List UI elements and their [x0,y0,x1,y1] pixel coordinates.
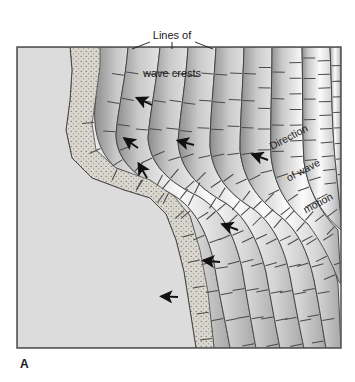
wave-orthogonal-ray [243,101,255,102]
wave-orthogonal-ray [198,128,210,129]
crest-label-line1: Lines of [143,29,201,42]
wave-orthogonal-ray [332,65,344,66]
wave-direction-arrow [161,296,178,297]
wave-orthogonal-ray [229,99,241,100]
lines-of-wave-crests-label: Lines of wave crests [143,4,201,104]
wave-orthogonal-ray [230,73,242,74]
wave-orthogonal-ray [211,129,223,130]
wave-orthogonal-ray [242,128,254,129]
direction-label-line1: Direction [267,108,334,151]
figure-panel: Lines of wave crests Direction of wave m… [0,0,355,382]
direction-label-line3: motion [301,172,355,215]
wave-orthogonal-ray [244,73,256,74]
wave-orthogonal-ray [318,61,330,62]
direction-label-line2: of wave [284,140,351,183]
crest-label-line2: wave crests [143,67,201,80]
wave-orthogonal-ray [228,126,240,127]
panel-letter-label: A [20,358,29,371]
